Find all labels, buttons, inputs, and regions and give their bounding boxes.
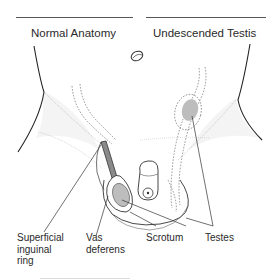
label-vas-deferens: Vas deferens [86,232,125,255]
label-testes: Testes [205,232,234,244]
right-hip-contour [140,44,262,160]
label-superficial-inguinal-ring: Superficial inguinal ring [17,232,64,267]
bottom-rule [40,278,130,279]
left-hip-contour [18,46,106,168]
navel-icon [130,49,145,62]
penis [138,161,158,200]
undescended-testis [179,97,200,122]
label-scrotum: Scrotum [146,232,183,244]
descended-testis [107,175,133,212]
